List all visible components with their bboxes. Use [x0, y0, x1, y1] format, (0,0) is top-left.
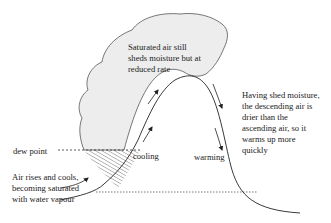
descending-arrow-upper: [213, 84, 222, 108]
foehn-diagram: Saturated air still sheds moisture but a…: [0, 0, 331, 223]
cooling-label: cooling: [133, 151, 159, 161]
cloud: [79, 13, 227, 150]
descending-text: Having shed moisture, the descending air…: [242, 90, 322, 155]
rising-text: Air rises and cools, becoming saturated …: [12, 172, 81, 204]
dew-point-label: dew point: [13, 146, 48, 156]
rising-arrow-lower: [143, 127, 152, 142]
condensation-zone: [84, 150, 140, 188]
warming-label: warming: [194, 152, 225, 162]
descending-arrow-lower: [215, 128, 222, 150]
diagram-canvas: Saturated air still sheds moisture but a…: [0, 0, 331, 223]
